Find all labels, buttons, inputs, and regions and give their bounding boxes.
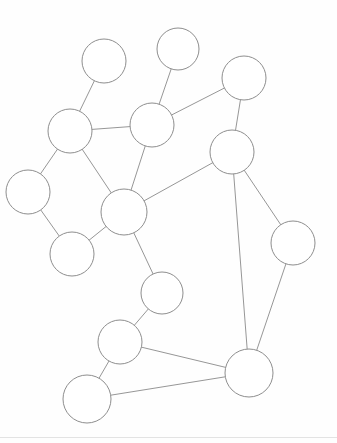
node-circle[interactable] [271,221,315,265]
node-link-graph [0,0,337,443]
graph-edge [144,163,213,201]
graph-node[interactable] [157,28,199,70]
graph-edge [257,264,286,350]
graph-node[interactable] [130,103,174,147]
node-circle[interactable] [101,189,147,235]
graph-edge [40,149,57,174]
node-circle[interactable] [130,103,174,147]
graph-canvas [0,0,337,443]
bottom-rule [0,437,337,438]
graph-node[interactable] [225,349,273,397]
node-circle[interactable] [82,39,126,83]
graph-edge [141,347,225,367]
graph-node[interactable] [48,109,92,153]
graph-node[interactable] [82,39,126,83]
graph-node[interactable] [50,232,94,276]
graph-node[interactable] [101,189,147,235]
graph-edge [41,210,60,236]
node-layer [6,28,315,423]
graph-edge [131,146,145,190]
graph-node[interactable] [98,320,142,364]
graph-edge [134,233,153,274]
graph-edge [159,69,171,104]
graph-edge [82,149,111,193]
graph-edge [99,361,109,378]
node-circle[interactable] [222,56,266,100]
graph-edge [111,377,226,395]
graph-edge [236,100,241,131]
graph-edge [134,309,148,325]
graph-node[interactable] [271,221,315,265]
graph-node[interactable] [222,56,266,100]
graph-node[interactable] [6,170,50,214]
graph-node[interactable] [63,375,111,423]
node-circle[interactable] [98,320,142,364]
graph-edge [244,170,281,224]
graph-node[interactable] [210,130,254,174]
node-circle[interactable] [225,349,273,397]
node-circle[interactable] [6,170,50,214]
node-circle[interactable] [48,109,92,153]
graph-edge [92,127,130,130]
node-circle[interactable] [63,375,111,423]
node-circle[interactable] [210,130,254,174]
node-circle[interactable] [157,28,199,70]
graph-edge [172,88,225,115]
graph-edge [80,81,95,111]
graph-edge [234,174,247,349]
node-circle[interactable] [50,232,94,276]
node-circle[interactable] [141,272,183,314]
graph-edge [89,226,106,240]
graph-node[interactable] [141,272,183,314]
